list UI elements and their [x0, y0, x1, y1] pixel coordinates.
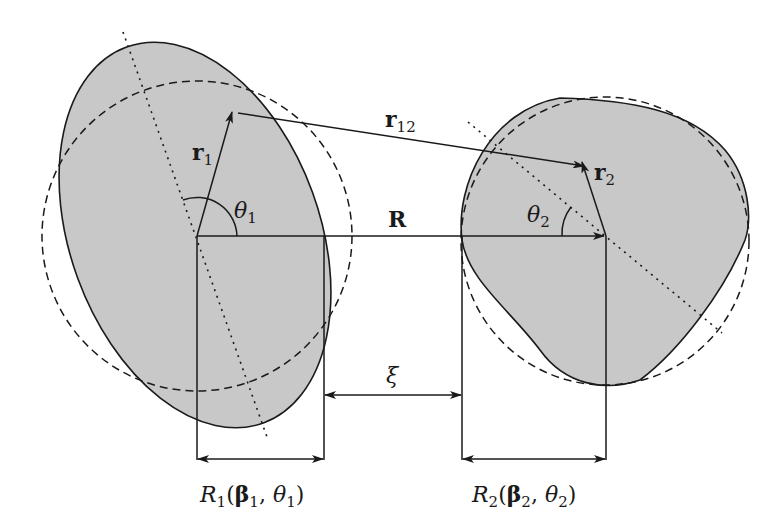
R1-label: R1(β1, θ1) [199, 481, 304, 511]
particle-1 [9, 4, 381, 465]
particle-1-body [9, 4, 381, 465]
particle-2 [461, 98, 748, 385]
R2-label: R2(β2, θ2) [471, 481, 576, 511]
r12-label: r12 [385, 106, 416, 136]
R-label: R [388, 206, 407, 232]
diagram-canvas: r1 r12 r2 θ1 θ2 R ξ R1(β1, θ1) R2(β2, θ2… [0, 0, 779, 531]
particle-2-body [461, 98, 748, 385]
xi-label: ξ [386, 363, 400, 388]
